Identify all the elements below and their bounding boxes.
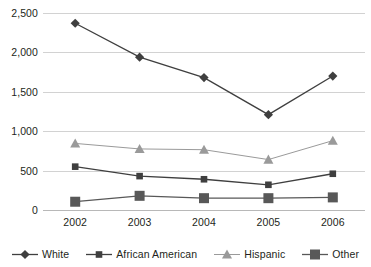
y-axis-tick-label: 500 <box>20 165 38 177</box>
data-point <box>71 19 80 28</box>
data-point <box>201 176 208 183</box>
y-axis-tick-label: 1,000 <box>11 125 38 137</box>
legend-item-other[interactable]: Other <box>302 248 359 261</box>
big-square-marker-icon <box>302 248 328 261</box>
series-other <box>70 191 338 207</box>
y-axis-tick-label: 1,500 <box>11 86 38 98</box>
legend-item-white[interactable]: White <box>12 248 69 261</box>
axis-baseline <box>43 210 365 211</box>
diamond-marker-icon <box>12 248 38 261</box>
x-axis-tick-label: 2005 <box>257 216 281 228</box>
series-hispanic <box>70 136 338 164</box>
x-axis-tick-label: 2003 <box>128 216 152 228</box>
plot-area <box>43 13 365 210</box>
series-layer <box>43 13 365 210</box>
data-point <box>72 163 79 170</box>
data-point <box>330 170 337 177</box>
data-point <box>265 181 272 188</box>
data-point <box>70 138 80 147</box>
y-axis-tick-label: 0 <box>32 204 38 216</box>
chart-legend: WhiteAfrican AmericanHispanicOther <box>0 243 371 265</box>
data-point <box>135 191 145 201</box>
y-axis-tick-label: 2,500 <box>11 7 38 19</box>
legend-item-label: Other <box>332 248 359 260</box>
legend-item-label: African American <box>116 248 197 260</box>
y-axis-tick-label: 2,000 <box>11 46 38 58</box>
data-point <box>328 136 338 145</box>
series-line <box>75 23 333 114</box>
data-point <box>136 173 143 180</box>
triangle-marker-icon <box>214 248 240 261</box>
legend-item-label: White <box>42 248 69 260</box>
x-axis-tick-label: 2006 <box>321 216 345 228</box>
data-point <box>70 197 80 207</box>
legend-item-african-american[interactable]: African American <box>86 248 197 261</box>
y-axis: 05001,0001,5002,0002,500 <box>0 13 38 210</box>
data-point <box>135 53 144 62</box>
line-chart: 05001,0001,5002,0002,500 200220032004200… <box>0 0 371 267</box>
series-african-american <box>72 163 336 188</box>
data-point <box>264 110 273 119</box>
data-point <box>199 73 208 82</box>
x-axis-tick-label: 2002 <box>63 216 87 228</box>
data-point <box>263 193 273 203</box>
legend-item-label: Hispanic <box>244 248 285 260</box>
data-point <box>199 193 209 203</box>
series-white <box>71 19 338 120</box>
data-point <box>328 71 337 80</box>
data-point <box>328 192 338 202</box>
x-axis: 20022003200420052006 <box>43 212 365 232</box>
x-axis-tick-label: 2004 <box>192 216 216 228</box>
legend-item-hispanic[interactable]: Hispanic <box>214 248 285 261</box>
square-marker-icon <box>86 248 112 261</box>
